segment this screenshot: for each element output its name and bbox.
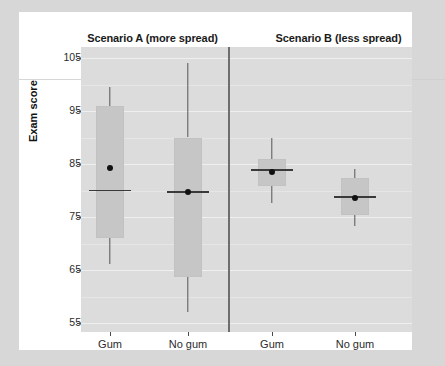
y-tick-label: 85 (47, 157, 81, 169)
panel-divider (228, 47, 230, 332)
y-axis: 5565758595105 (33, 12, 81, 350)
whisker-upper (354, 169, 355, 177)
y-tick-label: 95 (47, 104, 81, 116)
y-tick-label: 65 (47, 263, 81, 275)
whisker-lower (271, 186, 272, 203)
y-tick-label: 55 (47, 316, 81, 328)
x-tick-label: No gum (336, 338, 375, 350)
x-tick-mark (355, 332, 356, 336)
mean-marker (269, 169, 275, 175)
panel-scenario-a (81, 47, 228, 332)
whisker-upper (187, 63, 188, 137)
y-tick-label: 105 (47, 51, 81, 63)
whisker-lower (354, 215, 355, 226)
mean-marker (185, 189, 191, 195)
boxplot-no-gum (327, 47, 383, 332)
panel-scenario-b (230, 47, 412, 332)
mean-marker (352, 195, 358, 201)
mean-marker (107, 165, 113, 171)
x-tick-mark (272, 332, 273, 336)
panel-title-scenario-a: Scenario A (more spread) (65, 32, 240, 44)
whisker-lower (109, 238, 110, 264)
panel-title-scenario-b: Scenario B (less spread) (251, 32, 426, 44)
x-tick-mark (110, 332, 111, 336)
x-tick-label: Gum (98, 338, 122, 350)
x-tick-mark (188, 332, 189, 336)
whisker-upper (109, 87, 110, 106)
boxplot-gum (82, 47, 138, 332)
x-tick-label: No gum (169, 338, 208, 350)
box-iqr (96, 106, 124, 238)
boxplot-no-gum (160, 47, 216, 332)
x-tick-label: Gum (260, 338, 284, 350)
whisker-upper (271, 138, 272, 159)
y-tick-label: 75 (47, 210, 81, 222)
box-iqr (174, 138, 202, 277)
figure-card: Scenario A (more spread) Scenario B (les… (19, 12, 412, 350)
whisker-lower (187, 277, 188, 313)
median-line (89, 190, 131, 192)
boxplot-gum (244, 47, 300, 332)
